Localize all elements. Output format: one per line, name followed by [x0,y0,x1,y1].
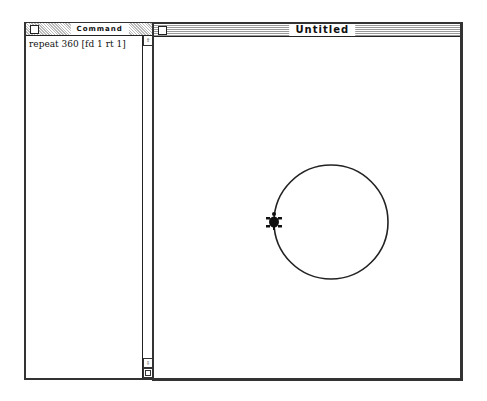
turtle-icon [266,212,282,230]
close-box-icon[interactable] [30,25,39,34]
drawn-circle [274,165,388,279]
command-window-titlebar[interactable]: Command [26,23,153,36]
close-box-icon[interactable] [158,26,167,35]
up-arrow-icon: ⇧ [146,36,150,44]
command-window-title: Command [71,23,129,35]
down-arrow-icon: ⇩ [146,359,150,367]
graphics-window-titlebar[interactable]: Untitled [154,24,460,37]
command-window[interactable]: Command repeat 360 [fd 1 rt 1] ⇧ ⇩ [24,22,154,380]
command-input-text[interactable]: repeat 360 [fd 1 rt 1] [29,39,126,49]
graphics-window[interactable]: Untitled [152,22,463,381]
graphics-window-title: Untitled [289,24,355,36]
turtle-canvas [154,37,460,378]
